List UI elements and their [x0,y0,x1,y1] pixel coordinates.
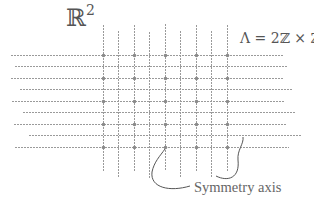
lattice-point [133,100,137,104]
lattice-definition-label: Λ = 2ℤ × ℤ [240,30,314,46]
lattice-point [102,123,106,127]
lattice-point [195,146,199,150]
lattice-point [195,77,199,81]
lattice-point [195,54,199,58]
symmetry-axis-label: Symmetry axis [194,179,281,196]
symmetry-axis-pointer-0 [152,149,190,189]
space-symbol: ℝ [66,4,86,32]
space-exponent: 2 [86,2,95,18]
lattice-point [195,123,199,127]
lattice-point [133,123,137,127]
lattice-point [164,100,168,104]
symmetry-axis-pointer-1 [216,137,243,179]
lattice-point [226,123,230,127]
space-label-r2: ℝ2 [66,5,95,30]
lattice-point [133,77,137,81]
lattice-point [164,123,168,127]
lattice-point [102,100,106,104]
lattice-point [102,54,106,58]
horizontal-grid-lines [11,56,302,148]
lattice-point [226,100,230,104]
lattice-point [226,146,230,150]
lattice-point [102,77,106,81]
lattice-point [102,146,106,150]
lattice-point [226,77,230,81]
lattice-point [164,77,168,81]
lattice-point [226,54,230,58]
lattice-point [164,54,168,58]
lattice-point [164,146,168,150]
lattice-point [133,54,137,58]
lattice-point [195,100,199,104]
lattice-point [133,146,137,150]
